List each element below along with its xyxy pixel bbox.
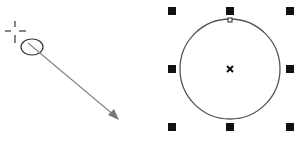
handle-top-left[interactable] [168, 7, 176, 15]
diagram-canvas [0, 0, 304, 147]
handle-middle-left[interactable] [168, 65, 176, 73]
handle-top-center[interactable] [226, 7, 234, 15]
top-node[interactable] [228, 18, 232, 22]
crosshair-icon [5, 21, 26, 43]
drag-arrow [28, 43, 119, 120]
handle-middle-right[interactable] [286, 65, 294, 73]
handle-bottom-center[interactable] [226, 123, 234, 131]
handle-top-right[interactable] [286, 7, 294, 15]
handle-bottom-right[interactable] [286, 123, 294, 131]
x-center-icon[interactable] [227, 66, 233, 72]
handle-bottom-left[interactable] [168, 123, 176, 131]
